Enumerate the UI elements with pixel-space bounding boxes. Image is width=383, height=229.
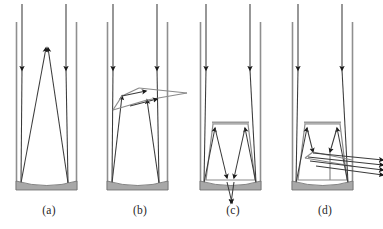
ray-diagram-canvas: (a) (0, 0, 383, 229)
trapezoid-body (298, 124, 347, 180)
trapezoid-body (206, 124, 255, 180)
panel-c-trapezoid-insert (206, 123, 255, 181)
panel-label-a: (a) (42, 204, 55, 217)
panel-label-b: (b) (133, 204, 147, 217)
panel-d-trapezoid-insert (298, 123, 347, 181)
panel-label-d: (d) (318, 204, 332, 217)
ray-diagram-figure: (a) (0, 0, 383, 229)
panel-label-c: (c) (226, 204, 239, 217)
